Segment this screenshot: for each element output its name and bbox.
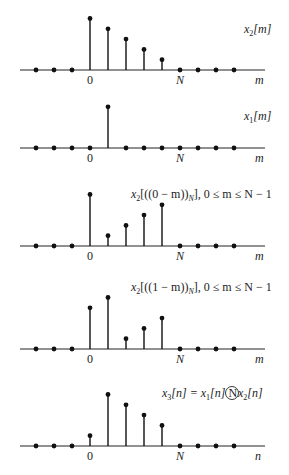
panel-x1-m: x1[m] 0 N m bbox=[20, 104, 272, 165]
stem-dot bbox=[178, 244, 183, 249]
panel-x2-reversed-1: x2[((1 − m))N], 0 ≤ m ≤ N − 1 0 N m bbox=[20, 280, 272, 366]
stem-dot bbox=[106, 295, 111, 300]
stem-dot bbox=[88, 146, 93, 151]
stem-dot bbox=[196, 347, 201, 352]
tick-N: N bbox=[175, 449, 185, 463]
stem-dot bbox=[34, 444, 39, 449]
stem-dot bbox=[70, 347, 75, 352]
stem-dot bbox=[214, 444, 219, 449]
stem-dot bbox=[70, 244, 75, 249]
stem-dot bbox=[124, 146, 129, 151]
stem-dot bbox=[124, 402, 129, 407]
panel-x2-reversed-0: x2[((0 − m))N], 0 ≤ m ≤ N − 1 0 N m bbox=[20, 187, 272, 263]
stem-dot bbox=[232, 244, 237, 249]
stem-dot bbox=[106, 392, 111, 397]
stem-dot bbox=[232, 347, 237, 352]
stem-dot bbox=[106, 104, 111, 109]
stem-dot bbox=[196, 146, 201, 151]
panel-title: x2[m] bbox=[243, 22, 272, 38]
tick-zero: 0 bbox=[87, 249, 93, 263]
stem-dot bbox=[160, 202, 165, 207]
stem-dot bbox=[124, 223, 129, 228]
stem-dot bbox=[214, 146, 219, 151]
stem-dot bbox=[160, 316, 165, 321]
stem-dot bbox=[34, 347, 39, 352]
axis-label: m bbox=[255, 352, 264, 366]
tick-N: N bbox=[175, 352, 185, 366]
tick-N: N bbox=[175, 151, 185, 165]
circ-N: N bbox=[229, 386, 238, 400]
stem-dot bbox=[178, 347, 183, 352]
stem-dot bbox=[196, 68, 201, 73]
stem-dot bbox=[178, 444, 183, 449]
axis-label: n bbox=[255, 449, 261, 463]
stem-dot bbox=[232, 444, 237, 449]
stem-dot bbox=[160, 423, 165, 428]
stem-dot bbox=[34, 244, 39, 249]
stem-dot bbox=[214, 68, 219, 73]
stem-dot bbox=[142, 47, 147, 52]
stem-dot bbox=[88, 305, 93, 310]
stem-dot bbox=[88, 16, 93, 21]
tick-N: N bbox=[175, 249, 185, 263]
stem-dot bbox=[196, 244, 201, 249]
stem-dot bbox=[142, 413, 147, 418]
stem-dot bbox=[124, 37, 129, 42]
circular-convolution-figure: x2[m] 0 N m x1[m] 0 N m x2[((0 − m))N], … bbox=[0, 0, 289, 475]
axis-label: m bbox=[255, 151, 264, 165]
tick-zero: 0 bbox=[87, 151, 93, 165]
stem-dot bbox=[124, 336, 129, 341]
stem-dot bbox=[70, 68, 75, 73]
panel-title: x3[n] = x1[n] bbox=[161, 386, 226, 402]
stem-dot bbox=[196, 444, 201, 449]
stem-dot bbox=[106, 233, 111, 238]
panel-title-rhs: x2[n] bbox=[237, 386, 263, 402]
stem-dot bbox=[88, 433, 93, 438]
axis-label: m bbox=[255, 73, 264, 87]
stem-dot bbox=[52, 244, 57, 249]
axis-label: m bbox=[255, 249, 264, 263]
stem-dot bbox=[52, 444, 57, 449]
stem-dot bbox=[52, 146, 57, 151]
stem-dot bbox=[178, 68, 183, 73]
stem-dot bbox=[160, 57, 165, 62]
stem-dot bbox=[142, 146, 147, 151]
tick-zero: 0 bbox=[87, 73, 93, 87]
stem-dot bbox=[142, 213, 147, 218]
panel-x3-n: x3[n] = x1[n] N x2[n] 0 N n bbox=[20, 386, 265, 463]
panel-title: x1[m] bbox=[243, 109, 272, 125]
stem-dot bbox=[160, 146, 165, 151]
stem-dot bbox=[34, 68, 39, 73]
stem-dot bbox=[232, 68, 237, 73]
stem-dot bbox=[70, 146, 75, 151]
stem-dot bbox=[214, 244, 219, 249]
stem-dot bbox=[70, 444, 75, 449]
stem-dot bbox=[52, 68, 57, 73]
stem-dot bbox=[178, 146, 183, 151]
panel-title: x2[((1 − m))N], 0 ≤ m ≤ N − 1 bbox=[130, 280, 272, 296]
tick-zero: 0 bbox=[87, 449, 93, 463]
stem-dot bbox=[34, 146, 39, 151]
stem-dot bbox=[142, 326, 147, 331]
stem-dot bbox=[232, 146, 237, 151]
panel-title: x2[((0 − m))N], 0 ≤ m ≤ N − 1 bbox=[130, 187, 272, 203]
stem-dot bbox=[214, 347, 219, 352]
tick-N: N bbox=[175, 73, 185, 87]
panel-x2-m: x2[m] 0 N m bbox=[20, 16, 272, 87]
tick-zero: 0 bbox=[87, 352, 93, 366]
stem-dot bbox=[88, 192, 93, 197]
stem-dot bbox=[106, 26, 111, 31]
stem-dot bbox=[52, 347, 57, 352]
